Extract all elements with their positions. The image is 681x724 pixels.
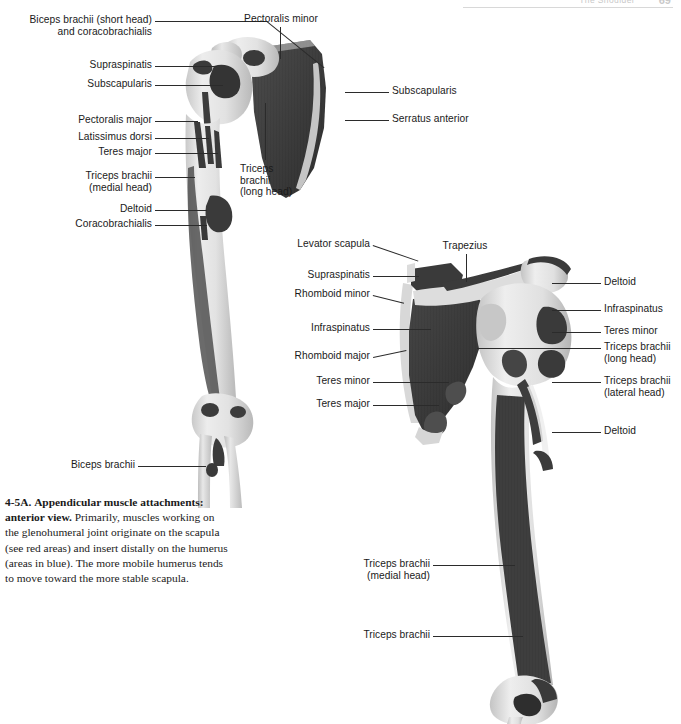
leader-triceps-medial-head-anterior	[155, 177, 195, 178]
textbook-page: The Shoulder 69	[0, 0, 681, 724]
leader-latissimus-dorsi	[155, 138, 209, 139]
leader-biceps-brachii-distal	[138, 466, 206, 467]
deltoid-tuberosity-posterior	[533, 451, 553, 471]
pectoralis-minor-attachment	[243, 50, 265, 66]
humerus-shaft-anterior	[185, 114, 236, 398]
label-infraspinatus-right: Infraspinatus	[604, 303, 681, 315]
distal-humerus-posterior	[490, 676, 558, 724]
leader-trapezius	[466, 254, 467, 282]
label-triceps-medial-head-anterior: Triceps brachii (medial head)	[0, 170, 152, 193]
leader-triceps-lateral-head	[552, 382, 601, 383]
label-supraspinatus-anterior: Supraspinatis	[0, 59, 152, 71]
leader-triceps-brachii-distal	[433, 636, 523, 637]
label-teres-major-posterior: Teres major	[240, 398, 370, 410]
label-supraspinatus-posterior: Supraspinatis	[240, 269, 370, 281]
label-infraspinatus-left: Infraspinatus	[240, 322, 370, 334]
label-pectoralis-major: Pectoralis major	[0, 114, 152, 126]
anterior-view-artwork	[150, 18, 350, 508]
figure-caption: 4-5A. Appendicular muscle attachments: a…	[5, 495, 230, 586]
leader-teres-minor-left	[373, 382, 449, 383]
leader-coracobrachialis	[155, 225, 207, 226]
biceps-tuberosity	[206, 463, 218, 477]
leader-triceps-long-head-anterior	[265, 103, 266, 160]
leader-serratus-anterior	[345, 120, 389, 121]
leader-infraspinatus-left	[373, 329, 431, 330]
label-deltoid-anterior: Deltoid	[0, 203, 152, 215]
leader-pectoralis-major	[155, 121, 198, 122]
leader-deltoid-lower	[552, 432, 601, 433]
teres-minor-facet	[538, 350, 565, 378]
label-levator-scapula: Levator scapula	[240, 238, 370, 250]
leader-triceps-medial-head-posterior	[433, 565, 515, 566]
label-triceps-long-head-anterior: Triceps brachii (long head)	[240, 163, 316, 198]
running-head-rule	[463, 7, 673, 8]
running-head: The Shoulder 69	[463, 0, 673, 10]
label-trapezius: Trapezius	[420, 240, 510, 252]
leader-triceps-long-head-posterior	[477, 348, 601, 349]
deltoid-tuberosity	[205, 196, 232, 233]
label-triceps-medial-head-posterior: Triceps brachii (medial head)	[300, 558, 430, 581]
label-teres-minor-left: Teres minor	[240, 375, 370, 387]
label-triceps-lateral-head: Triceps brachii (lateral head)	[604, 375, 681, 398]
leader-teres-major-anterior	[155, 153, 218, 154]
posterior-view-artwork	[385, 255, 615, 724]
label-teres-major-anterior: Teres major	[0, 146, 152, 158]
page-number: 69	[659, 0, 671, 6]
label-serratus-anterior: Serratus anterior	[392, 113, 522, 125]
leader-supraspinatus-anterior	[155, 66, 217, 67]
distal-humerus-anterior	[192, 393, 254, 508]
caption-figure-number: 4-5A.	[5, 496, 31, 508]
label-biceps-brachii-distal: Biceps brachii	[0, 459, 135, 471]
label-subscapularis-anterior: Subscapularis	[0, 78, 152, 90]
label-rhomboid-minor: Rhomboid minor	[240, 288, 370, 300]
leader-teres-minor-right	[552, 332, 601, 333]
leader-pectoralis-minor	[280, 27, 281, 59]
leader-supraspinatus-posterior	[373, 276, 419, 277]
label-subscapularis-right: Subscapularis	[392, 85, 512, 97]
leader-subscapularis-anterior	[155, 85, 223, 86]
leader-subscapularis-right	[345, 92, 389, 93]
label-teres-minor-right: Teres minor	[604, 325, 681, 337]
leader-infraspinatus-right	[552, 310, 601, 311]
label-biceps-brachii-short-head: Biceps brachii (short head) and coracobr…	[0, 14, 152, 37]
leader-deltoid-anterior	[155, 210, 207, 211]
leader-teres-major-posterior	[373, 405, 439, 406]
leader-deltoid-upper	[552, 283, 601, 284]
label-triceps-brachii-distal: Triceps brachii	[300, 629, 430, 641]
label-deltoid-lower: Deltoid	[604, 425, 681, 437]
label-rhomboid-major: Rhomboid major	[240, 350, 370, 362]
humerus-shaft-posterior	[491, 350, 553, 685]
label-latissimus-dorsi: Latissimus dorsi	[0, 131, 152, 143]
label-deltoid-upper: Deltoid	[604, 276, 681, 288]
label-triceps-long-head-posterior: Triceps brachii (long head)	[604, 341, 681, 364]
label-pectoralis-minor: Pectoralis minor	[226, 13, 336, 25]
label-coracobrachialis: Coracobrachialis	[0, 218, 152, 230]
running-head-title: The Shoulder	[579, 0, 635, 5]
